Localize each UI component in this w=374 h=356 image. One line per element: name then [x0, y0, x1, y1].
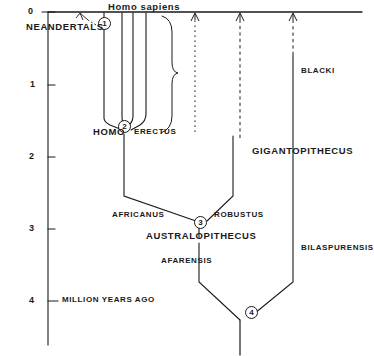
- lineage-dashed-2-arrow: [236, 13, 244, 21]
- taxon-label-bilaspurensis: BILASPURENSIS: [301, 244, 374, 252]
- taxon-label-homo: HOMO: [93, 127, 125, 137]
- lineage-dotted-1-arrow: [191, 13, 199, 21]
- taxon-label-gigantopithecus: GIGANTOPITHECUS: [252, 146, 353, 156]
- lineage-erectus-c: [127, 13, 133, 129]
- taxon-label-australopithecus: AUSTRALOPITHECUS: [146, 231, 256, 241]
- stem-afarensis-to-node4: [199, 243, 240, 320]
- node-3[interactable]: 3: [194, 216, 207, 229]
- erectus-grade-brace: [161, 16, 178, 133]
- taxon-label-homo-sapiens: Homo sapiens: [108, 2, 180, 12]
- stem-erectus-to-node3: [124, 134, 196, 221]
- branch-robustus-up: [207, 136, 233, 221]
- taxon-label-erectus: ERECTUS: [134, 128, 176, 136]
- axis-label-2: 2: [29, 151, 34, 161]
- axis-label-3: 3: [29, 223, 34, 233]
- lineage-homo-sapiens: [104, 13, 120, 129]
- taxon-label-neandertals: NEANDERTALS: [26, 22, 104, 32]
- taxon-label-blacki: BLACKI: [301, 67, 335, 75]
- taxon-label-afarensis: AFARENSIS: [161, 257, 212, 265]
- neandertal-pointer-arrowhead: [76, 13, 83, 20]
- axis-label-1: 1: [30, 79, 35, 89]
- lineage-gigantopithecus-solid: [249, 55, 293, 318]
- axis-label-0: 0: [28, 6, 33, 16]
- axis-title: MILLION YEARS AGO: [62, 296, 155, 304]
- lineage-erectus-b: [122, 13, 124, 129]
- taxon-label-africanus: AFRICANUS: [112, 211, 165, 219]
- node-4[interactable]: 4: [245, 306, 258, 319]
- axis-label-4: 4: [29, 295, 34, 305]
- taxon-label-robustus: ROBUSTUS: [214, 211, 264, 219]
- lineage-gigantopithecus-arrow: [289, 13, 297, 21]
